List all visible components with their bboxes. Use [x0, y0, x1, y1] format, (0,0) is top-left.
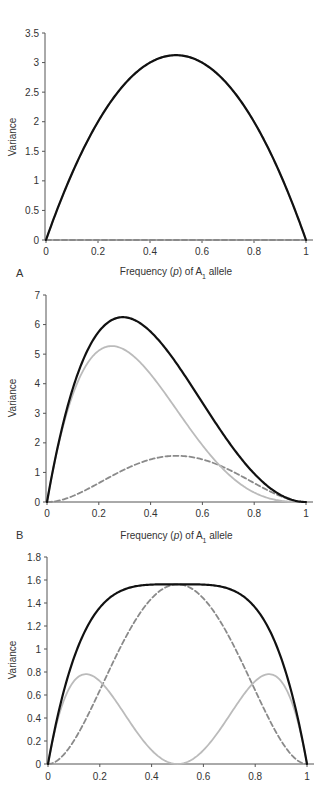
x-axis-title-part: allele	[207, 530, 234, 541]
x-tick-label: 0	[44, 508, 50, 519]
y-tick-label: 0	[33, 235, 39, 246]
y-tick-label: 0.4	[27, 713, 41, 724]
x-axis-title-part: Frequency (	[120, 530, 174, 541]
x-tick-label: 0.8	[247, 246, 261, 257]
y-tick-label: 0	[34, 497, 40, 508]
x-tick-label: 0.2	[91, 246, 105, 257]
x-axis-title-part: ) of A	[179, 266, 203, 277]
y-axis-title: Variance	[7, 640, 18, 679]
series-additive-variance	[47, 346, 306, 502]
x-tick-label: 0.6	[195, 246, 209, 257]
y-tick-label: 1	[35, 644, 41, 655]
y-tick-label: 5	[34, 349, 40, 360]
y-tick-label: 0.8	[27, 667, 41, 678]
x-axis-title-part: ) of A	[179, 530, 203, 541]
y-tick-label: 0.6	[27, 690, 41, 701]
y-tick-label: 1.6	[27, 575, 41, 586]
y-tick-label: 1.8	[27, 552, 41, 563]
y-tick-label: 2	[33, 116, 39, 127]
x-tick-label: 0.2	[92, 508, 106, 519]
x-tick-label: 0	[43, 246, 49, 257]
figure: 00.511.522.533.500.20.40.60.81VarianceFr…	[0, 0, 331, 790]
y-tick-label: 0	[35, 759, 41, 770]
y-tick-label: 7	[34, 290, 40, 301]
x-axis-title-part: Frequency (	[120, 266, 174, 277]
y-axis-title: Variance	[7, 378, 18, 417]
x-axis-title: Frequency (p) of A1 allele	[120, 530, 233, 544]
y-tick-label: 4	[34, 378, 40, 389]
y-tick-label: 3	[33, 57, 39, 68]
y-tick-label: 1	[33, 175, 39, 186]
x-axis-title-part: allele	[206, 266, 233, 277]
chart-panel-1: 00.511.522.533.500.20.40.60.81VarianceFr…	[7, 28, 313, 280]
y-tick-label: 1.5	[25, 146, 39, 157]
y-tick-label: 1.2	[27, 621, 41, 632]
y-tick-label: 0.5	[25, 205, 39, 216]
chart-panel-3: 00.20.40.60.811.21.41.61.800.20.40.60.81…	[7, 552, 314, 783]
y-tick-label: 1.4	[27, 598, 41, 609]
y-tick-label: 0.2	[27, 736, 41, 747]
x-tick-label: 0.8	[248, 771, 262, 782]
panel-label: A	[16, 267, 24, 279]
x-tick-label: 0.2	[93, 771, 107, 782]
x-tick-label: 0.4	[143, 246, 157, 257]
x-tick-label: 1	[304, 771, 310, 782]
series-dominance-variance	[47, 456, 306, 502]
x-tick-label: 0.6	[195, 508, 209, 519]
y-axis-title: Variance	[7, 117, 18, 156]
x-tick-label: 1	[303, 508, 309, 519]
x-tick-label: 0.8	[247, 508, 261, 519]
y-tick-label: 6	[34, 319, 40, 330]
y-tick-label: 2.5	[25, 87, 39, 98]
y-tick-label: 3	[34, 408, 40, 419]
series-total-variance	[46, 55, 306, 240]
x-tick-label: 0	[45, 771, 51, 782]
x-tick-label: 0.4	[145, 771, 159, 782]
panel-label: B	[16, 529, 23, 541]
y-tick-label: 1	[34, 467, 40, 478]
y-tick-label: 3.5	[25, 28, 39, 39]
x-tick-label: 1	[303, 246, 309, 257]
chart-panel-2: 0123456700.20.40.60.81VarianceFrequency …	[7, 290, 313, 544]
x-tick-label: 0.6	[196, 771, 210, 782]
x-axis-title: Frequency (p) of A1 allele	[120, 266, 233, 280]
y-tick-label: 2	[34, 437, 40, 448]
x-tick-label: 0.4	[144, 508, 158, 519]
